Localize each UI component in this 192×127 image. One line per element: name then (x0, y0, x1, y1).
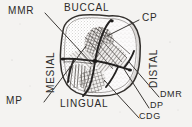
callout-label-dp: DP (150, 101, 164, 110)
callout-label-cdg: CDG (139, 112, 161, 121)
callout-label-cp: CP (142, 13, 158, 23)
orientation-label-buccal: BUCCAL (64, 3, 109, 13)
tooth-occlusal-diagram: MMR MP CP DMR DP CDG BUCCAL LINGUAL MESI… (0, 0, 192, 127)
callout-label-mp: MP (6, 96, 23, 106)
orientation-label-distal: DISTAL (149, 49, 159, 88)
orientation-label-mesial: MESIAL (46, 52, 56, 93)
callout-label-dmr: DMR (160, 90, 182, 99)
orientation-label-lingual: LINGUAL (60, 99, 108, 109)
callout-label-mmr: MMR (8, 6, 34, 16)
